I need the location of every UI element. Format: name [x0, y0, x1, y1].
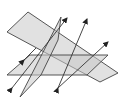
three-planes-diagram: [0, 0, 127, 99]
